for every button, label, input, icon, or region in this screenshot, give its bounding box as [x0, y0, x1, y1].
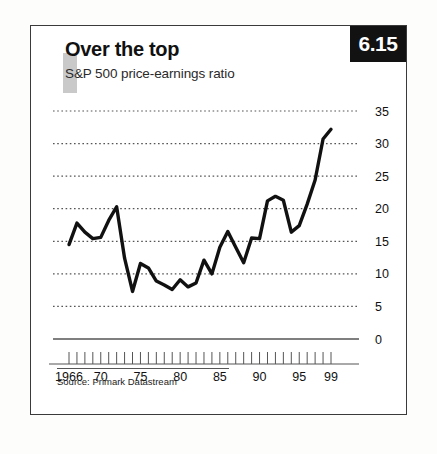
chart-plot-area: 05101520253035 196670758085909599: [31, 26, 408, 416]
x-axis-tick-label: 99: [324, 370, 338, 384]
y-axis-tick-label: 25: [375, 170, 389, 184]
figure-page: 6.15 Over the top S&P 500 price-earnings…: [0, 0, 437, 454]
y-axis-tick-label: 15: [375, 235, 389, 249]
footer-divider: [57, 368, 229, 369]
x-axis-ticks-group: [49, 352, 359, 364]
data-series-line: [69, 129, 331, 291]
figure-frame: 6.15 Over the top S&P 500 price-earnings…: [30, 25, 407, 415]
gridlines-group: [53, 111, 359, 306]
x-axis-tick-label: 95: [292, 370, 306, 384]
y-axis-labels-group: 05101520253035: [375, 105, 389, 347]
line-chart: 05101520253035 196670758085909599: [31, 26, 408, 416]
y-axis-tick-label: 5: [375, 300, 382, 314]
y-axis-tick-label: 30: [375, 137, 389, 151]
source-note: Source: Primark Datastream: [57, 376, 177, 387]
x-axis-tick-label: 90: [253, 370, 267, 384]
data-series-group: [69, 129, 331, 291]
y-axis-tick-label: 10: [375, 267, 389, 281]
y-axis-tick-label: 20: [375, 202, 389, 216]
y-axis-tick-label: 35: [375, 105, 389, 119]
y-axis-tick-label: 0: [375, 333, 382, 347]
x-axis-tick-label: 85: [213, 370, 227, 384]
